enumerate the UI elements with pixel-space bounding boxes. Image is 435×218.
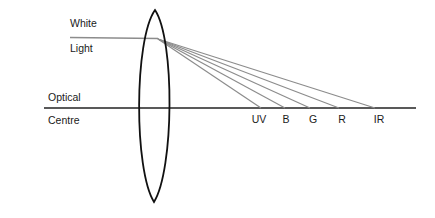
focal-label-uv: UV [252,114,267,125]
dispersion-diagram: White Light Optical Centre UV B G R IR [0,0,435,218]
label-optical: Optical [48,92,81,103]
diagram-canvas [0,0,435,218]
label-white: White [70,18,97,29]
focal-label-g: G [309,114,317,125]
ray-uv [158,39,261,108]
dispersed-rays [158,39,375,108]
focal-label-ir: IR [374,114,385,125]
ray-r [158,39,339,108]
label-light: Light [70,43,93,54]
label-centre: Centre [48,115,80,126]
ray-g [158,39,310,108]
focal-label-r: R [338,114,346,125]
focal-label-b: B [282,114,289,125]
